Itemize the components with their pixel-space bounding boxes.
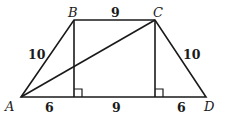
vertex-label-a: A [4,99,14,114]
trapezoid-diagram: A B C D 9 10 10 6 9 6 [0,0,225,116]
label-ab: 10 [28,47,46,62]
right-angle-marker-left [74,89,82,97]
label-base-right: 6 [177,100,186,115]
right-angle-marker-right [155,89,163,97]
label-base-left: 6 [45,100,54,115]
vertex-label-d: D [203,99,215,114]
label-cd: 10 [183,47,201,62]
label-bc: 9 [111,5,120,20]
label-base-middle: 9 [112,100,121,115]
trapezoid-abcd [21,20,206,97]
vertex-label-c: C [153,5,163,20]
vertex-label-b: B [67,5,78,20]
